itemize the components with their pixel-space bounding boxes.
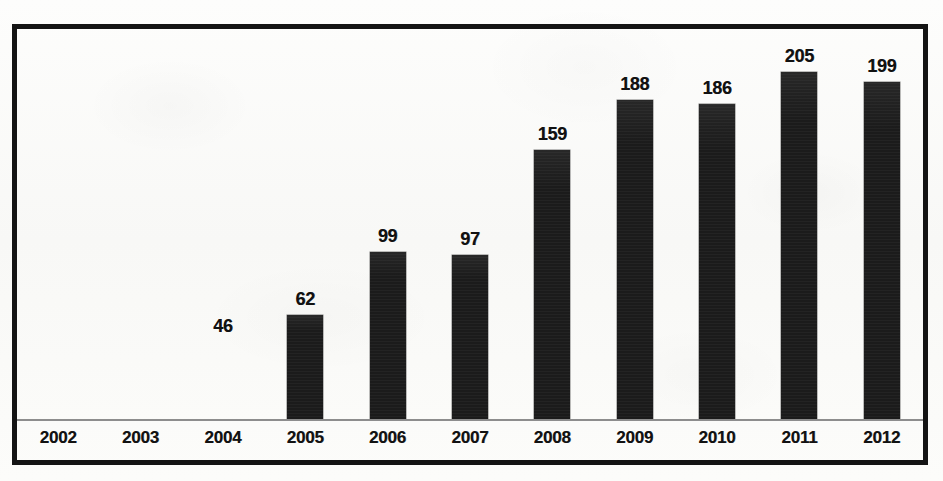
category-label-2012: 2012 <box>863 428 900 448</box>
bar-2005 <box>287 315 323 420</box>
bar-2009 <box>617 100 653 420</box>
bar-group-2002 <box>17 29 99 420</box>
bar-value-label-2011: 205 <box>785 46 814 67</box>
bar-value-label-2010: 186 <box>703 78 732 99</box>
bar-group-2009: 188 <box>594 29 676 420</box>
bar-2007 <box>452 255 488 420</box>
category-label-2002: 2002 <box>40 428 77 448</box>
category-label-2007: 2007 <box>451 428 488 448</box>
category-label-2011: 2011 <box>781 428 817 448</box>
bar-group-2010: 186 <box>676 29 758 420</box>
bar-group-2012: 199 <box>841 29 923 420</box>
bar-group-2011: 205 <box>758 29 840 420</box>
bar-group-2006: 99 <box>346 29 428 420</box>
bar-value-label-2004: 46 <box>213 316 232 337</box>
category-label-2004: 2004 <box>204 428 241 448</box>
category-label-2003: 2003 <box>122 428 159 448</box>
bar-value-label-2006: 99 <box>378 226 397 247</box>
bar-group-2008: 159 <box>511 29 593 420</box>
category-label-2010: 2010 <box>699 428 736 448</box>
bar-group-2004: 46 <box>182 29 264 420</box>
chart-page: 46629997159188186205199 2002200320042005… <box>0 0 943 481</box>
bar-value-label-2012: 199 <box>867 56 896 77</box>
bar-value-label-2007: 97 <box>460 229 479 250</box>
category-axis-labels: 2002200320042005200620072008200920102011… <box>17 421 923 460</box>
category-label-2006: 2006 <box>369 428 406 448</box>
bar-group-2003 <box>99 29 181 420</box>
bar-2006 <box>370 252 406 420</box>
category-label-2009: 2009 <box>616 428 653 448</box>
bar-2010 <box>699 104 735 420</box>
bar-series: 46629997159188186205199 <box>17 29 923 420</box>
category-label-2008: 2008 <box>534 428 571 448</box>
bar-group-2005: 62 <box>264 29 346 420</box>
bar-value-label-2005: 62 <box>296 289 315 310</box>
bar-2011 <box>781 72 817 421</box>
bar-value-label-2009: 188 <box>620 74 649 95</box>
bar-2012 <box>864 82 900 420</box>
bar-group-2007: 97 <box>429 29 511 420</box>
bar-2008 <box>534 150 570 420</box>
bar-value-label-2008: 159 <box>538 124 567 145</box>
category-label-2005: 2005 <box>287 428 324 448</box>
